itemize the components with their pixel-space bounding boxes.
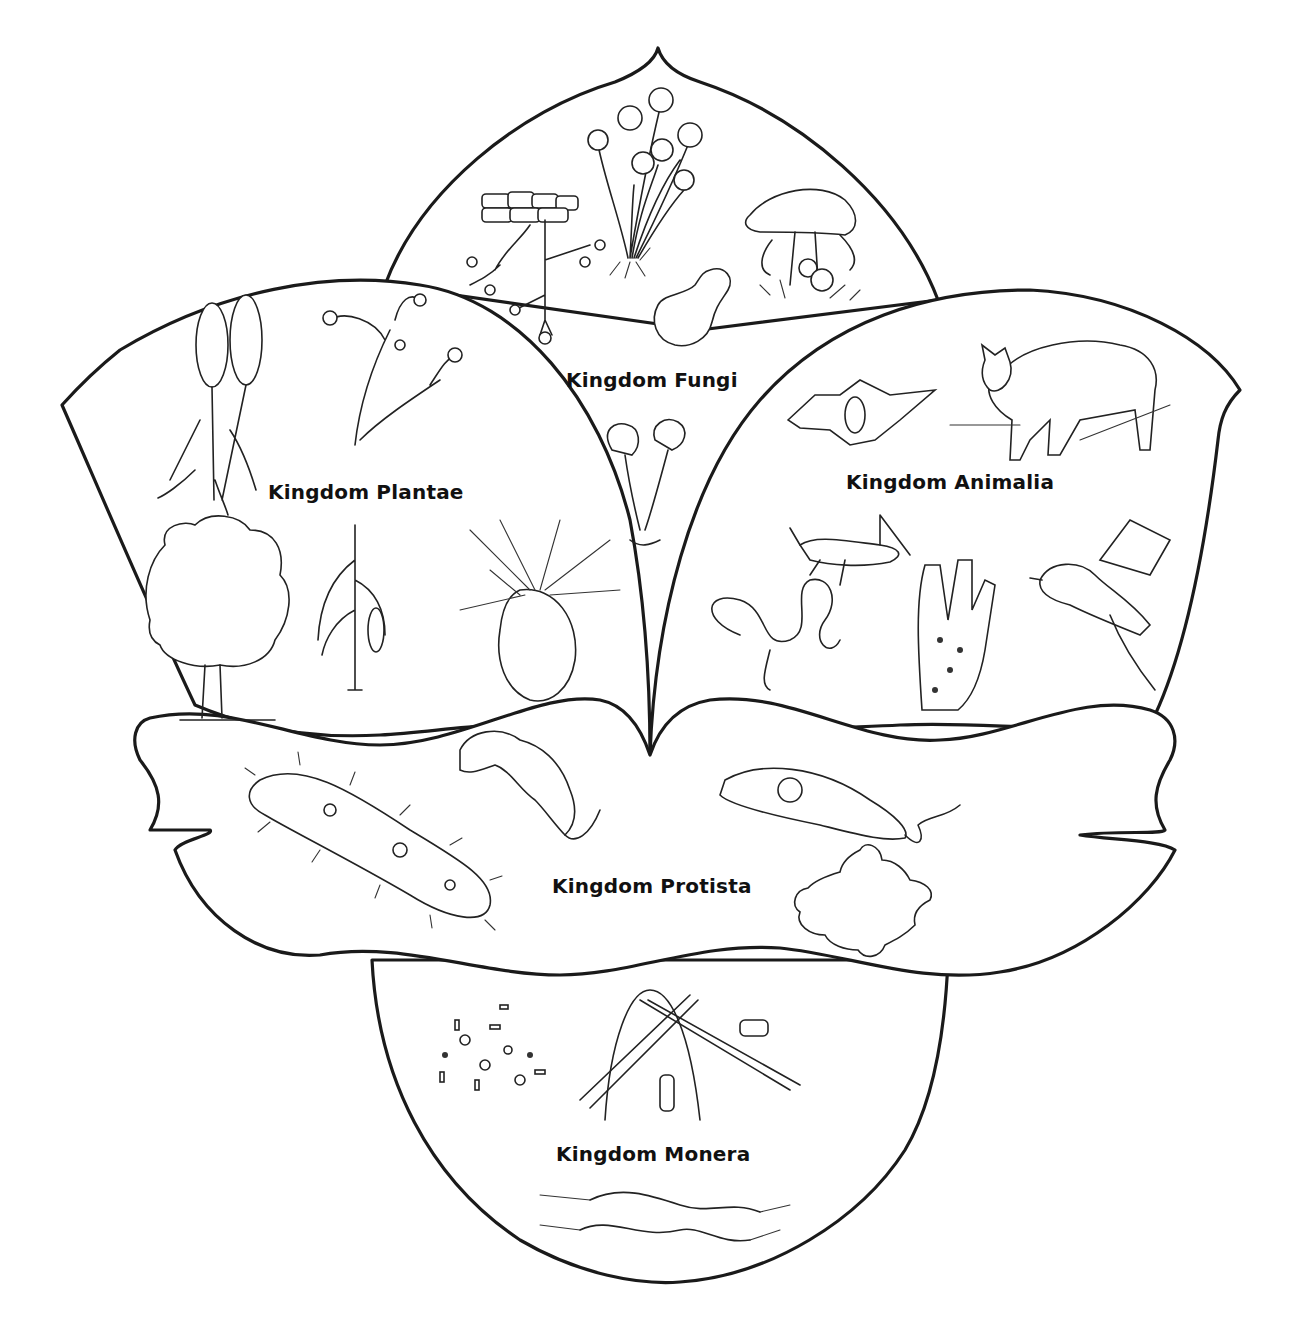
kingdom-protista-label: Kingdom Protista [552,874,752,898]
kingdom-fungi-label: Kingdom Fungi [566,368,738,392]
kingdom-plantae-label: Kingdom Plantae [268,480,464,504]
protista-band [135,699,1175,975]
kingdom-monera-label: Kingdom Monera [556,1142,750,1166]
kingdom-animalia-label: Kingdom Animalia [846,470,1054,494]
kingdoms-diagram [0,0,1304,1333]
monera-petal [372,960,948,1283]
